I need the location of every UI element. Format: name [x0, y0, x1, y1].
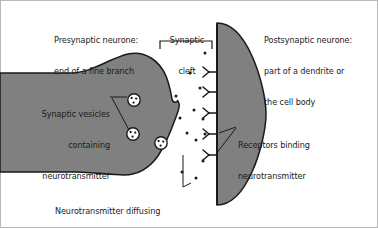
label-receptors-line2: neurotransmitter	[238, 171, 310, 181]
neurotransmitter-dot	[186, 132, 189, 135]
neurotransmitter-dot	[204, 133, 207, 136]
label-synaptic-vesicles: Synaptic vesicles containing neurotransm…	[2, 89, 110, 201]
label-postsynaptic-line1: Postsynaptic neurone:	[264, 35, 352, 45]
synapse-diagram: Presynaptic neurone: end of a fine branc…	[0, 0, 378, 228]
label-vesicles-line2: containing	[2, 140, 110, 150]
label-cleft-line1: Synaptic	[161, 35, 213, 45]
label-postsynaptic-neurone: Postsynaptic neurone: part of a dendrite…	[264, 15, 352, 127]
neurotransmitter-dot	[193, 109, 196, 112]
label-neurotransmitter-diffusing: Neurotransmitter diffusing	[55, 186, 160, 228]
neurotransmitter-dot	[179, 117, 182, 120]
neurotransmitter-dot	[202, 118, 205, 121]
synaptic-vesicle	[155, 137, 167, 149]
label-diffusing-line1: Neurotransmitter diffusing	[55, 206, 160, 216]
label-receptors-line1: Receptors binding	[238, 140, 310, 150]
label-receptors: Receptors binding neurotransmitter	[238, 120, 310, 202]
label-postsynaptic-line3: the cell body	[264, 97, 352, 107]
neurotransmitter-dot	[195, 139, 198, 142]
label-synaptic-cleft: Synaptic cleft	[161, 15, 213, 97]
label-presynaptic-neurone: Presynaptic neurone: end of a fine branc…	[54, 15, 138, 97]
label-vesicles-line3: neurotransmitter	[2, 171, 110, 181]
label-cleft-line2: cleft	[161, 66, 213, 76]
label-presynaptic-line1: Presynaptic neurone:	[54, 35, 138, 45]
neurotransmitter-dot	[202, 160, 205, 163]
neurotransmitter-dot	[195, 177, 198, 180]
label-vesicles-line1: Synaptic vesicles	[2, 109, 110, 119]
label-postsynaptic-line2: part of a dendrite or	[264, 66, 352, 76]
label-presynaptic-line2: end of a fine branch	[54, 66, 138, 76]
